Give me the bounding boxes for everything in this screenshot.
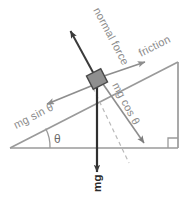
normal-force-arrow: [71, 31, 96, 76]
inclined-plane-diagram: normal force friction mg sin θ mg cos θ …: [0, 0, 193, 203]
physics-diagram-canvas: normal force friction mg sin θ mg cos θ …: [0, 0, 193, 203]
mg-sin-theta-arrow: [47, 84, 96, 104]
mg-cos-theta-label: mg cos θ: [110, 80, 142, 126]
angle-arc: [46, 129, 50, 149]
right-angle-marker: [168, 138, 178, 148]
mg-sin-theta-label: mg sin θ: [11, 100, 55, 130]
weight-label: mg: [91, 174, 103, 192]
angle-theta-label: θ: [54, 132, 61, 146]
normal-force-label: normal force: [91, 5, 131, 67]
friction-label: friction: [136, 33, 172, 59]
